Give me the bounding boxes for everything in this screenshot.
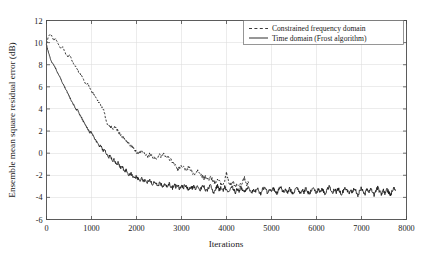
- y-tick-label: 12: [34, 17, 42, 26]
- y-tick-label: 4: [38, 105, 42, 114]
- x-tick-label: 0: [44, 224, 48, 233]
- chart-canvas: 010002000300040005000600070008000-6-4-20…: [0, 0, 426, 265]
- y-tick-label: 8: [38, 61, 42, 70]
- figure-container: 010002000300040005000600070008000-6-4-20…: [0, 0, 426, 265]
- x-tick-label: 1000: [83, 224, 99, 233]
- x-tick-label: 8000: [398, 224, 414, 233]
- y-axis-title: Ensemble mean square residual error (dB): [7, 42, 17, 197]
- x-tick-label: 2000: [128, 224, 144, 233]
- y-tick-label: 10: [34, 39, 42, 48]
- y-tick-label: 2: [38, 127, 42, 136]
- x-axis-title: Iterations: [209, 239, 244, 249]
- x-tick-label: 3000: [173, 224, 189, 233]
- y-tick-label: -2: [36, 171, 43, 180]
- y-tick-label: -6: [36, 216, 43, 225]
- y-tick-label: 0: [38, 149, 42, 158]
- x-tick-label: 5000: [263, 224, 279, 233]
- x-tick-label: 7000: [353, 224, 369, 233]
- y-tick-label: 6: [38, 83, 42, 92]
- x-tick-label: 4000: [218, 224, 234, 233]
- legend-label-time-domain-frost: Time domain (Frost algorithm): [272, 34, 367, 43]
- legend-label-constrained-frequency-domain: Constrained frequency domain: [272, 24, 366, 33]
- x-tick-label: 6000: [308, 224, 324, 233]
- legend: Constrained frequency domain Time domain…: [244, 21, 404, 45]
- y-tick-label: -4: [36, 193, 43, 202]
